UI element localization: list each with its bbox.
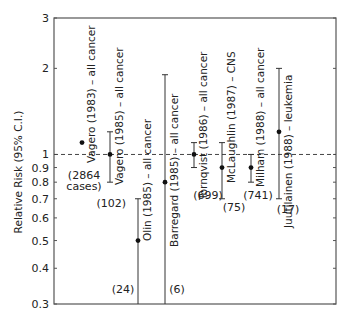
y-tick-label: 0.5 [32,235,50,248]
sample-size-label: (699) [193,189,223,202]
study-label: Tornqvist (1986) – all cancer [197,51,209,201]
study-0: Vagero (1983) – all cancer(2864cases) [66,25,101,193]
study-label: Olin (1985) – all cancer [141,118,153,241]
y-tick-label: 1 [42,148,49,161]
y-tick-label: 0.7 [32,193,50,206]
sample-size-label: (24) [112,283,135,296]
study-3: Barregard (1985) – all cancer(6) [162,75,185,304]
sample-size-label: (102) [96,197,126,210]
study-label: McLaughlin (1987) – CNS [225,51,237,183]
point-estimate [220,165,225,170]
sample-size-label-line2: cases) [66,180,101,193]
sample-size-label: (75) [223,201,246,214]
study-estimates: Vagero (1983) – all cancer(2864cases)Vag… [66,25,299,304]
point-estimate [277,129,282,134]
y-tick-label: 0.4 [32,262,50,275]
study-label: Vagero (1985) – all cancer [113,47,125,185]
y-tick-label: 0.8 [32,176,50,189]
study-label: Milham (1988) – all cancer [254,47,266,187]
forest-plot-chart: 3210.90.80.70.60.50.40.3 Vagero (1983) –… [0,0,350,325]
study-6: Milham (1988) – all cancer(741) [243,47,273,202]
study-4: Tornqvist (1986) – all cancer(699) [191,51,223,202]
study-label: Barregard (1985) – all cancer [168,93,180,247]
sample-size-label: (17) [277,203,300,216]
y-tick-label: 0.6 [32,212,50,225]
y-tick-label: 0.9 [32,162,50,175]
sample-size-label: (6) [169,283,185,296]
study-label: Vagero (1983) – all cancer [85,25,97,163]
point-estimate [136,238,141,243]
y-tick-label: 0.3 [32,298,50,311]
y-axis-label: Relative Risk (95% C.I.) [12,111,24,234]
point-estimate [249,165,254,170]
y-tick-label: 3 [42,12,49,25]
point-estimate [163,180,168,185]
point-estimate [80,140,85,145]
point-estimate [192,152,197,157]
study-7: Juutilainen (1988) – leukemia(17) [276,68,299,229]
study-5: McLaughlin (1987) – CNS(75) [219,51,245,214]
sample-size-label: (741) [243,189,273,202]
y-tick-label: 2 [42,62,49,75]
point-estimate [108,152,113,157]
